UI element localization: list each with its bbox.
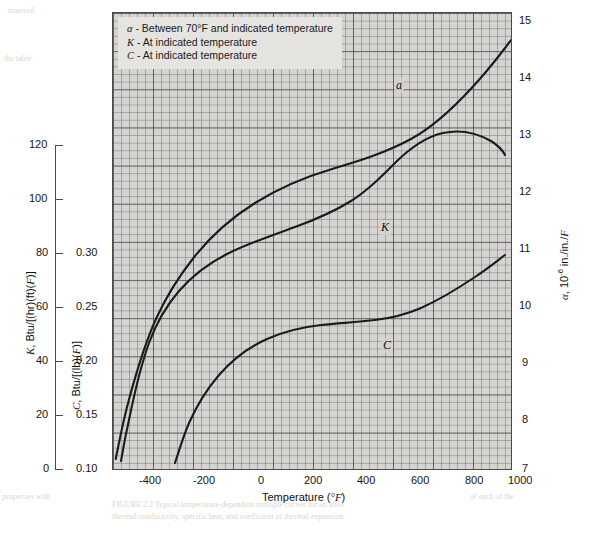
alpha-tick-label: 15 <box>519 14 531 26</box>
k-tick-label: 120 <box>29 138 47 150</box>
curve-label-alpha: a <box>394 78 404 93</box>
k-tick-label: 80 <box>36 246 48 258</box>
curve-c <box>175 255 505 463</box>
x-tick-label: 200 <box>304 474 322 486</box>
legend-text-alpha: - Between 70°F and indicated temperature <box>133 22 333 34</box>
k-tick-mark <box>55 415 63 416</box>
x-axis-title-close: ) <box>342 491 346 503</box>
curves-svg <box>113 13 512 470</box>
alpha-axis-title-exponent: -6 <box>556 269 565 276</box>
alpha-axis-title-units: , 10 <box>558 276 570 294</box>
k-axis-title-close: )] <box>24 271 36 278</box>
curve-alpha <box>116 40 511 459</box>
alpha-tick-label: 11 <box>519 242 530 254</box>
c-axis-title-degsym: F <box>70 348 82 355</box>
scan-artifact: material <box>8 6 34 15</box>
k-axis-title-symbol: K <box>24 348 36 355</box>
c-axis-title-symbol: C <box>70 403 82 410</box>
k-tick-mark <box>55 199 63 200</box>
alpha-tick-label: 9 <box>522 356 528 368</box>
scan-artifact: properties with <box>2 492 50 501</box>
x-tick-label: 1000 <box>508 474 532 486</box>
c-tick-label: 0.25 <box>76 300 97 312</box>
curve-k <box>121 131 505 461</box>
c-axis-title: C, Btu/[(lb)(F)] <box>70 341 82 410</box>
c-axis-title-close: )] <box>70 341 82 348</box>
alpha-axis-title: α, 10-6 in./in./F <box>556 230 570 300</box>
alpha-tick-label: 10 <box>519 299 531 311</box>
x-axis-title-unit: °F <box>330 491 341 503</box>
legend-text-c: - At indicated temperature <box>134 49 257 61</box>
legend-item-k: K - At indicated temperature <box>127 36 333 50</box>
k-tick-label: 100 <box>29 192 47 204</box>
legend-text-k: - At indicated temperature <box>134 36 257 48</box>
c-tick-label: 0.30 <box>76 246 97 258</box>
alpha-tick-label: 8 <box>522 413 528 425</box>
k-tick-mark <box>55 145 63 146</box>
scan-artifact: of each of the <box>470 492 514 501</box>
legend: α - Between 70°F and indicated temperatu… <box>118 17 342 69</box>
figure-container: material the table properties with of ea… <box>0 0 599 537</box>
x-axis-title-main: Temperature ( <box>262 491 330 503</box>
legend-item-c: C - At indicated temperature <box>127 49 333 63</box>
curve-label-k: K <box>379 220 391 235</box>
scan-artifact: the table <box>4 54 31 63</box>
k-tick-label: 20 <box>36 408 48 420</box>
alpha-axis-title-symbol: α <box>558 294 570 300</box>
alpha-tick-label: 12 <box>519 185 531 197</box>
x-tick-label: 0 <box>258 474 264 486</box>
k-tick-mark <box>55 307 63 308</box>
c-axis-title-units: , Btu/[(lb)( <box>70 354 82 402</box>
x-tick-label: -400 <box>139 474 161 486</box>
legend-item-alpha: α - Between 70°F and indicated temperatu… <box>127 22 333 36</box>
alpha-tick-label: 14 <box>519 71 531 83</box>
x-axis-title: Temperature (°F) <box>262 491 345 503</box>
alpha-tick-label: 7 <box>522 462 528 474</box>
curve-label-c: C <box>381 338 393 353</box>
c-tick-label: 0.10 <box>76 462 97 474</box>
x-tick-label: 800 <box>465 474 483 486</box>
figure-caption: thermal conductivity, specific heat, and… <box>112 512 345 521</box>
k-axis-title-degsym: F <box>24 278 36 285</box>
k-tick-mark <box>55 469 63 470</box>
k-tick-label: 60 <box>36 300 48 312</box>
k-tick-label: 40 <box>36 354 48 366</box>
alpha-axis-title-unit2: in./in./ <box>558 237 570 269</box>
alpha-axis-title-degsym: F <box>558 230 570 237</box>
k-tick-label: 0 <box>43 462 49 474</box>
alpha-tick-label: 13 <box>519 128 531 140</box>
legend-symbol-c: C <box>127 50 134 61</box>
k-axis-title: K, Btu/[(hr)(ft)(F)] <box>24 271 36 355</box>
plot-area: α - Between 70°F and indicated temperatu… <box>112 12 512 470</box>
x-tick-label: 400 <box>357 474 375 486</box>
k-tick-mark <box>55 361 63 362</box>
k-tick-mark <box>55 253 63 254</box>
k-axis-title-units: , Btu/[(hr)(ft)( <box>24 285 36 348</box>
x-tick-label: -200 <box>193 474 215 486</box>
legend-symbol-k: K <box>127 37 134 48</box>
x-tick-label: 600 <box>411 474 429 486</box>
